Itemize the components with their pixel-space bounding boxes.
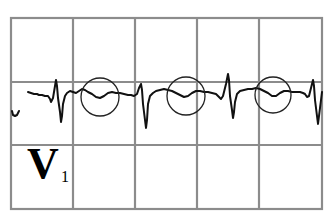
lead-label: V xyxy=(27,142,59,186)
ecg-figure: V 1 xyxy=(0,0,331,223)
lead-subscript: 1 xyxy=(61,169,69,185)
ecg-svg xyxy=(0,0,331,223)
trace-leadin xyxy=(12,111,19,116)
